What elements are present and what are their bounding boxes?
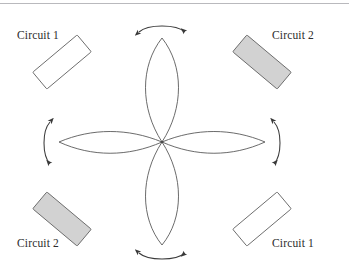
arrow-right-icon	[274, 122, 280, 164]
circuit-label-bottom-left: Circuit 2	[17, 237, 59, 250]
circuit-label-top-right: Circuit 2	[272, 29, 314, 42]
arrow-left-icon	[44, 122, 50, 164]
lobe-up-shape	[146, 38, 179, 142]
lobe-left-shape	[59, 132, 162, 154]
circuit-label-top-left: Circuit 1	[17, 29, 59, 42]
lobe-right-shape	[162, 132, 265, 154]
lobe-center-point	[161, 141, 164, 144]
lobe-down-shape	[146, 142, 179, 245]
lobe-group	[59, 38, 265, 245]
arrow-bottom-icon	[139, 253, 185, 259]
circuit-label-bottom-right: Circuit 1	[272, 237, 314, 250]
arrow-top-icon	[139, 26, 185, 32]
figure-canvas: Circuit 1 Circuit 2 Circuit 2 Circuit 1	[0, 0, 349, 278]
coil-top-left	[33, 35, 92, 89]
coil-group	[33, 35, 292, 246]
coil-top-right	[233, 35, 292, 89]
